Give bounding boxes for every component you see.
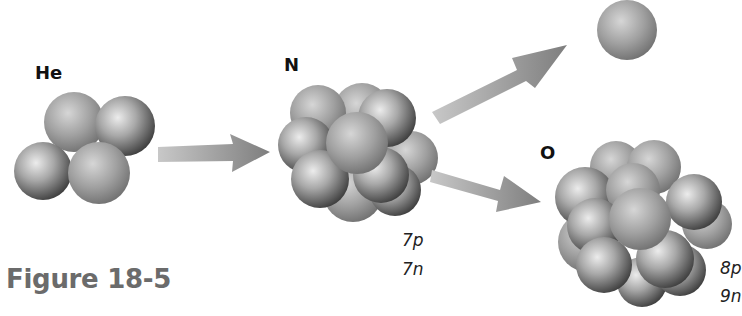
arrow-nitrogen-to-proton	[432, 45, 567, 124]
figure-caption: Figure 18-5	[6, 264, 171, 294]
helium-label: He	[35, 62, 62, 83]
oxygen-proton-count: 8p	[720, 256, 742, 280]
arrow-nitrogen-to-oxygen	[430, 170, 541, 212]
helium-nucleus	[14, 92, 155, 204]
oxygen-label: O	[540, 142, 555, 163]
nitrogen-proton-count: 7p	[402, 228, 424, 252]
arrow-helium-to-nitrogen	[158, 134, 270, 172]
oxygen-nucleus	[555, 140, 732, 307]
nitrogen-neutron-count: 7n	[402, 257, 424, 281]
oxygen-neutron-count: 9n	[720, 284, 742, 308]
nitrogen-label: N	[284, 54, 299, 75]
nitrogen-nucleus	[278, 83, 438, 222]
proton-particle	[597, 0, 657, 60]
